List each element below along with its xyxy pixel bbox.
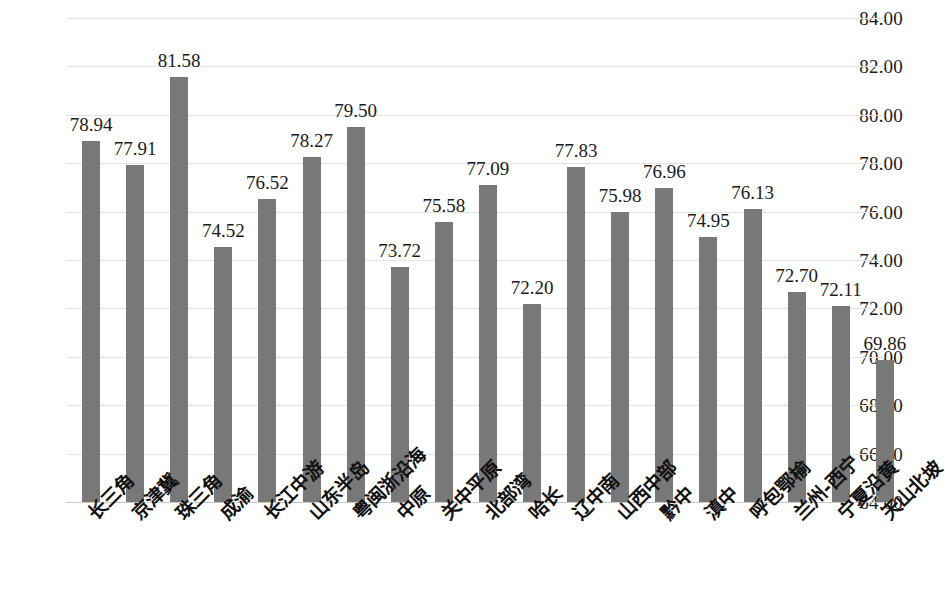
gridline [66, 115, 885, 116]
plot-area [66, 18, 885, 502]
bar-value-label: 79.50 [321, 101, 391, 120]
bar-value-label: 77.83 [541, 141, 611, 160]
bar-value-label: 72.11 [806, 280, 876, 299]
bar [435, 222, 453, 502]
bar [126, 165, 144, 502]
gridline [66, 357, 885, 358]
bar [744, 209, 762, 503]
bar [170, 77, 188, 502]
bar-value-label: 81.58 [144, 51, 214, 70]
gridline [66, 260, 885, 261]
bar-value-label: 77.09 [453, 159, 523, 178]
bar [567, 167, 585, 502]
bar-value-label: 76.13 [718, 183, 788, 202]
bar [258, 199, 276, 502]
bar-value-label: 69.86 [850, 334, 920, 353]
bar [303, 157, 321, 502]
bar-value-label: 76.52 [232, 173, 302, 192]
bar [347, 127, 365, 502]
bar [214, 247, 232, 502]
bar [523, 304, 541, 502]
gridline [66, 454, 885, 455]
bar-value-label: 77.91 [100, 139, 170, 158]
bar-value-label: 74.52 [188, 221, 258, 240]
bar [699, 237, 717, 502]
bar-value-label: 75.58 [409, 196, 479, 215]
bar-value-label: 74.95 [673, 211, 743, 230]
bar-value-label: 73.72 [365, 241, 435, 260]
bar-value-label: 72.20 [497, 278, 567, 297]
gridline [66, 405, 885, 406]
bar-value-label: 78.94 [56, 115, 126, 134]
gridline [66, 308, 885, 309]
gridline [66, 18, 885, 19]
bar-value-label: 78.27 [277, 131, 347, 150]
bar [611, 212, 629, 502]
bar-value-label: 76.96 [629, 162, 699, 181]
bar [479, 185, 497, 502]
bar-value-label: 75.98 [585, 186, 655, 205]
bar [82, 141, 100, 503]
